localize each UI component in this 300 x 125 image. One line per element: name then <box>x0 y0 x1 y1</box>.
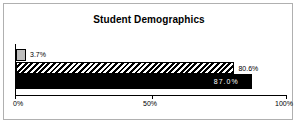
bar-label-series-3: 87.0% <box>214 78 239 85</box>
bar-label-series-1: 3.7% <box>30 51 46 58</box>
x-axis-tick-0 <box>15 96 16 99</box>
x-axis-tick-50 <box>152 96 153 99</box>
x-axis-label-0: 0% <box>13 100 23 107</box>
x-axis-label-50: 50% <box>143 100 157 107</box>
bar-label-series-2: 80.6% <box>238 65 258 72</box>
chart-frame: Student Demographics 0% 50% 100% 3.7% 80… <box>3 3 293 120</box>
x-axis-tick-100 <box>286 96 287 99</box>
x-axis-label-100: 100% <box>275 100 293 107</box>
plot-area: 0% 50% 100% 3.7% 80.6% 87.0% <box>4 4 294 121</box>
bar-series-2 <box>16 62 234 74</box>
bar-series-1 <box>16 49 26 61</box>
